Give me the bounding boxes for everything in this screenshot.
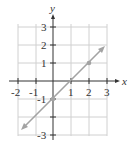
y-tick-p3: 3 xyxy=(41,21,47,33)
y-tick-n3: -3 xyxy=(37,129,47,141)
point-0-neg1 xyxy=(51,97,56,102)
y-tick-p1: 1 xyxy=(41,57,47,69)
point-2-1 xyxy=(87,61,92,66)
x-tick-p3: 3 xyxy=(104,86,110,98)
x-axis-label: x xyxy=(121,75,127,87)
y-tick-n1: -1 xyxy=(37,93,46,105)
x-tick-p2: 2 xyxy=(86,86,92,98)
x-tick-n2: -2 xyxy=(11,86,20,98)
axes xyxy=(9,17,117,140)
coordinate-plane: y x -2 -1 1 2 3 3 2 1 -1 -3 xyxy=(0,0,131,145)
y-axis-arrow-icon xyxy=(51,14,55,19)
x-tick-p1: 1 xyxy=(68,86,74,98)
y-tick-p2: 2 xyxy=(41,39,47,51)
y-axis-label: y xyxy=(49,2,55,14)
x-axis-arrow-icon xyxy=(115,79,120,83)
